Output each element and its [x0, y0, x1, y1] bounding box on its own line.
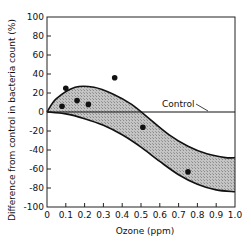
y-tick-label: -40: [29, 145, 44, 155]
x-tick-label: 0.5: [134, 210, 148, 220]
data-point: [63, 85, 69, 91]
y-tick-label: 60: [33, 50, 45, 60]
x-tick-label: 0.9: [209, 210, 224, 220]
y-tick-label: -100: [24, 202, 45, 212]
y-axis-title: Difference from control in bacteria coun…: [7, 19, 17, 221]
control-annotation-pointer: [196, 104, 208, 111]
data-point: [140, 124, 146, 130]
x-tick-label: 0.2: [77, 210, 91, 220]
x-tick-label: 0.6: [153, 210, 168, 220]
y-tick-label: -80: [29, 183, 44, 193]
control-annotation: Control: [162, 99, 195, 109]
y-tick-label: 20: [33, 88, 45, 98]
y-tick-label: 100: [27, 12, 44, 22]
x-axis-title: Ozone (ppm): [116, 226, 175, 236]
data-point: [74, 98, 80, 104]
x-tick-label: 1.0: [228, 210, 243, 220]
y-tick-label: 0: [38, 107, 44, 117]
x-tick-label: 0.7: [171, 210, 185, 220]
x-tick-label: 0.8: [190, 210, 205, 220]
chart: Control 00.10.20.30.40.50.60.70.80.91.01…: [0, 0, 251, 242]
data-point: [185, 169, 191, 175]
x-tick-label: 0.4: [115, 210, 130, 220]
y-tick-label: -20: [29, 126, 44, 136]
x-tick-label: 0.3: [96, 210, 110, 220]
data-point: [86, 102, 92, 108]
x-tick-label: 0: [44, 210, 50, 220]
x-tick-label: 0.1: [59, 210, 73, 220]
data-point: [112, 75, 118, 81]
data-point: [59, 104, 65, 110]
y-tick-label: 80: [33, 31, 45, 41]
y-tick-label: -60: [29, 164, 44, 174]
y-tick-label: 40: [33, 69, 45, 79]
